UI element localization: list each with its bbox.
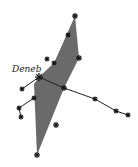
star-icon — [66, 33, 71, 38]
constellation-line — [19, 98, 34, 108]
star-icon — [20, 87, 25, 92]
star-icon — [45, 57, 50, 62]
deneb-label: Deneb — [11, 64, 42, 74]
star-icon — [53, 122, 59, 128]
constellation-line — [64, 88, 95, 99]
star-icon — [32, 96, 37, 101]
constellation-diagram: Deneb — [0, 0, 138, 167]
star-icon — [35, 73, 43, 81]
star-icon — [17, 106, 22, 111]
star-icon — [126, 113, 131, 118]
star-icon — [76, 55, 82, 61]
star-icon — [72, 13, 78, 19]
star-icon — [61, 85, 67, 91]
constellation-region — [34, 16, 79, 155]
constellation-line — [95, 99, 116, 111]
star-icon — [19, 115, 24, 120]
star-icon — [114, 109, 119, 114]
star-icon — [34, 152, 40, 158]
star-icon — [93, 97, 98, 102]
star-icon — [52, 61, 57, 66]
